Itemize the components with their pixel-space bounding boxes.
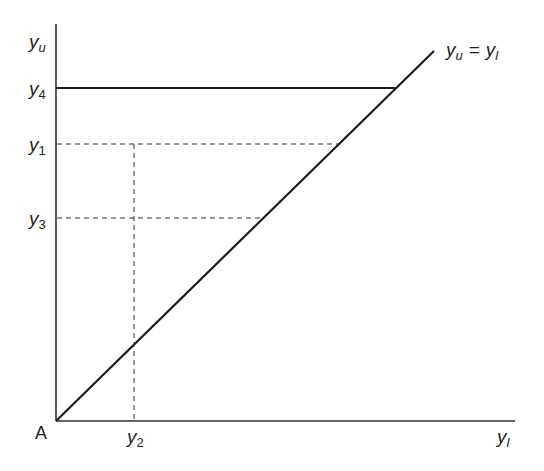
y3-label: y3 (27, 208, 46, 232)
x-axis-label: yl (495, 426, 511, 450)
diagram-canvas: yu y4 y1 y3 A y2 yl yu=yl (0, 0, 544, 471)
y4-label: y4 (27, 78, 46, 102)
y-axis-label: yu (27, 31, 46, 55)
y2-label: y2 (125, 426, 144, 450)
diagonal-label: yu=yl (444, 39, 499, 63)
origin-label: A (35, 423, 47, 443)
diagonal-line (56, 51, 434, 421)
y1-label: y1 (27, 134, 46, 158)
